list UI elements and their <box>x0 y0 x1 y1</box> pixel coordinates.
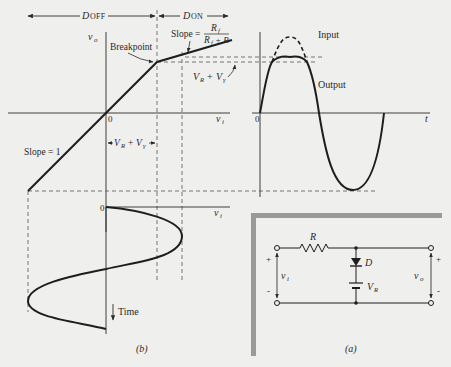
resistor-symbol <box>300 244 328 252</box>
frame-left-bar <box>251 213 256 356</box>
input-plus: + <box>266 254 271 264</box>
frame-top-bar <box>251 213 442 218</box>
output-waveform-plot: 0 t Input Output <box>252 29 430 197</box>
caption-b: (b) <box>136 343 148 355</box>
diode-icon <box>351 258 361 266</box>
span-vr: V <box>114 138 121 148</box>
d-on-sub: ON <box>191 12 203 21</box>
caption-a: (a) <box>345 343 357 355</box>
output-label: Output <box>318 79 346 90</box>
output-voltage-sub: o <box>420 275 424 283</box>
input-voltage-sub: i <box>287 275 289 283</box>
d-on-label: D <box>182 10 191 21</box>
breakpoint-label: Breakpoint <box>110 42 153 52</box>
vo-axis-label: v <box>88 31 93 42</box>
diode-label: D <box>364 257 373 268</box>
slope-denominator-plus-r: + R <box>215 35 229 45</box>
waveform-time-label: t <box>425 113 428 124</box>
vo-axis-sub: o <box>94 36 98 44</box>
input-minus: - <box>267 286 270 296</box>
transfer-characteristic-plot: D OFF D ON v o v i 0 Breakpoint Slope <box>8 10 376 312</box>
span-vr-sub: R <box>120 142 125 149</box>
upper-threshold-vr-sub: R <box>199 76 204 83</box>
slope-label: Slope = <box>171 29 200 39</box>
vi-time-origin-label: 0 <box>100 203 105 213</box>
upper-threshold-vg-sub: γ <box>223 76 226 83</box>
input-sine-vs-time <box>28 207 182 329</box>
input-voltage-label: v <box>281 270 286 281</box>
vi-time-axis-label: v <box>214 207 219 218</box>
output-terminal-bottom <box>429 301 434 306</box>
resistor-label: R <box>309 231 316 242</box>
breakpoint-pointer <box>128 53 153 62</box>
clipper-circuit: R D V R + - v i + - v o (a) <box>251 213 442 356</box>
output-voltage-label: v <box>414 270 419 281</box>
battery-sub: R <box>373 286 378 293</box>
upper-threshold-pointer <box>228 65 235 77</box>
vi-axis-label: v <box>216 113 221 124</box>
output-waveform <box>260 57 384 190</box>
slope-one-label: Slope = 1 <box>24 147 61 157</box>
slope-numerator: R <box>210 23 217 33</box>
vi-time-axis-sub: i <box>220 212 222 220</box>
slope-denominator-r: R <box>203 35 210 45</box>
span-plus: + <box>128 138 133 148</box>
clipper-diagram: D OFF D ON v o v i 0 Breakpoint Slope <box>0 0 451 367</box>
input-label: Input <box>318 29 339 40</box>
input-terminal-bottom <box>275 301 280 306</box>
time-label: Time <box>118 306 139 317</box>
slope-numerator-sub: f <box>218 27 221 34</box>
origin-label: 0 <box>108 114 113 124</box>
d-off-label: D <box>81 10 90 21</box>
input-vs-time-plot: 0 v i Time (b) <box>28 203 230 355</box>
span-vg-sub: γ <box>143 142 146 149</box>
waveform-origin-label: 0 <box>255 114 260 124</box>
output-minus: - <box>437 286 440 296</box>
output-terminal-top <box>429 246 434 251</box>
vi-axis-sub: i <box>222 118 224 126</box>
input-terminal-top <box>275 246 280 251</box>
span-vg: V <box>136 138 143 148</box>
slope-pointer <box>188 41 190 52</box>
d-off-sub: OFF <box>90 12 106 21</box>
upper-threshold-plus: + <box>207 71 213 82</box>
transfer-curve <box>28 40 232 191</box>
output-plus: + <box>436 254 441 264</box>
